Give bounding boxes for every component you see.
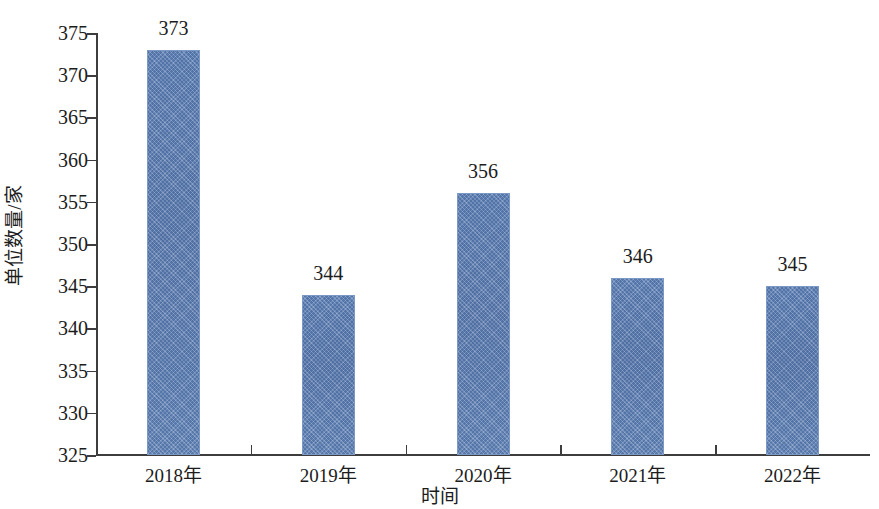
y-tick-label: 350 [34,234,88,254]
x-tick-mark [560,445,561,455]
y-axis-tick-labels: 375 370 365 360 355 350 345 340 335 330 … [30,0,88,509]
x-tick-label: 2018年 [113,465,233,487]
y-tick-mark [87,75,96,77]
y-tick-mark [87,244,96,246]
y-tick-label: 370 [34,65,88,85]
y-tick-label: 335 [34,361,88,381]
y-tick-mark [87,117,96,119]
bar-chart: 单位数量/家 375 370 365 360 355 350 345 340 3… [0,0,879,509]
y-tick-mark [87,202,96,204]
bar [766,286,819,455]
y-tick-label: 340 [34,318,88,338]
y-tick-mark [87,371,96,373]
bar [147,50,200,455]
y-tick-label: 360 [34,150,88,170]
bar-value-label: 356 [443,161,523,181]
y-tick-label: 345 [34,276,88,296]
bar-value-label: 344 [288,263,368,283]
bar-value-label: 346 [598,246,678,266]
y-tick-mark [87,455,96,457]
y-tick-label: 375 [34,23,88,43]
y-tick-mark [87,160,96,162]
y-axis-line [96,33,98,455]
x-tick-label: 2020年 [423,465,543,487]
y-tick-label: 355 [34,192,88,212]
x-tick-label: 2019年 [268,465,388,487]
y-tick-label: 325 [34,445,88,465]
bar-value-label: 345 [753,254,833,274]
y-tick-label: 365 [34,107,88,127]
y-tick-mark [87,413,96,415]
x-axis-title: 时间 [0,487,879,507]
x-tick-mark [406,445,407,455]
x-tick-label: 2021年 [578,465,698,487]
bar [457,193,510,455]
y-tick-mark [87,328,96,330]
y-tick-mark [87,286,96,288]
y-tick-mark [87,33,96,35]
plot-area: 373344356346345 [96,33,870,455]
bar [302,295,355,455]
x-tick-mark [251,445,252,455]
x-tick-label: 2022年 [733,465,853,487]
bar-value-label: 373 [133,18,213,38]
y-tick-label: 330 [34,403,88,423]
y-axis-title: 单位数量/家 [0,166,26,306]
x-tick-mark [715,445,716,455]
bar [611,278,664,455]
